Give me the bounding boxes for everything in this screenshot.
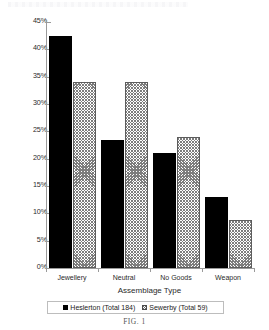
bar-jewellery-heslerton <box>49 36 72 268</box>
bar-neutral-sewerby <box>125 82 148 268</box>
figure-container: 0%5%10%15%20%25%30%35%40%45% Proportion … <box>0 0 269 330</box>
figure-caption: FIG. 1 <box>0 317 269 326</box>
scan-artifact-strip <box>8 2 188 7</box>
bar-no-goods-sewerby <box>177 137 200 268</box>
legend-swatch-icon <box>142 305 147 310</box>
bar-weapon-sewerby <box>229 220 252 268</box>
x-tick-mark <box>46 268 47 272</box>
y-tick-label: 20% <box>33 153 47 162</box>
x-axis-category-label: Weapon <box>202 274 254 281</box>
legend-label: Heslerton (Total 184) <box>70 304 135 311</box>
y-tick-label: 15% <box>33 180 47 189</box>
y-tick-label: 35% <box>33 71 47 80</box>
y-tick-label: 45% <box>33 16 47 25</box>
y-tick-label: 25% <box>33 125 47 134</box>
bar-jewellery-sewerby <box>73 82 96 268</box>
legend-entry-sewerby: Sewerby (Total 59) <box>142 304 207 311</box>
bar-weapon-heslerton <box>205 197 228 268</box>
x-axis-category-label: Jewellery <box>46 274 98 281</box>
chart-legend: Heslerton (Total 184)Sewerby (Total 59) <box>47 301 224 314</box>
x-axis-category-label: Neutral <box>98 274 150 281</box>
x-axis-title: Assemblage Type <box>47 286 252 295</box>
y-axis-ticks: 0%5%10%15%20%25%30%35%40%45% <box>11 22 47 268</box>
x-tick-mark <box>254 268 255 272</box>
x-tick-mark <box>202 268 203 272</box>
y-tick-label: 40% <box>33 43 47 52</box>
y-tick-label: 30% <box>33 98 47 107</box>
x-tick-mark <box>98 268 99 272</box>
y-tick-label: 10% <box>33 207 47 216</box>
legend-swatch-icon <box>63 305 68 310</box>
x-tick-mark <box>150 268 151 272</box>
bar-no-goods-heslerton <box>153 153 176 268</box>
bar-neutral-heslerton <box>101 140 124 268</box>
legend-entry-heslerton: Heslerton (Total 184) <box>63 304 135 311</box>
x-axis-category-label: No Goods <box>150 274 202 281</box>
legend-label: Sewerby (Total 59) <box>149 304 207 311</box>
